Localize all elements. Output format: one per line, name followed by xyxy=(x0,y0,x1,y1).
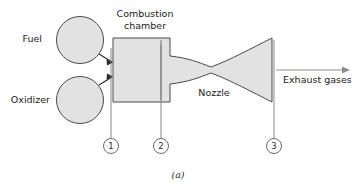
combustion-chamber-label-line2: chamber xyxy=(124,20,166,31)
fuel-feed-line xyxy=(99,54,112,62)
nozzle-label: Nozzle xyxy=(198,87,230,98)
station-2-label: 2 xyxy=(158,141,163,151)
diagram-canvas: 1 2 3 Fuel Oxidizer Combustion chamber N… xyxy=(0,0,357,188)
engine-body xyxy=(113,38,272,102)
figure-caption: (a) xyxy=(171,169,184,180)
combustion-chamber-label-line1: Combustion xyxy=(117,8,174,19)
oxidizer-label: Oxidizer xyxy=(11,94,50,105)
fuel-tank xyxy=(57,17,104,64)
rocket-engine-diagram: 1 2 3 Fuel Oxidizer Combustion chamber N… xyxy=(0,0,357,188)
station-1-label: 1 xyxy=(108,141,113,151)
exhaust-flow-arrowhead xyxy=(342,67,350,74)
oxidizer-tank xyxy=(57,77,104,124)
station-3-label: 3 xyxy=(271,141,276,151)
oxidizer-feed-line xyxy=(99,77,112,85)
exhaust-gases-label: Exhaust gases xyxy=(283,74,352,85)
fuel-label: Fuel xyxy=(23,33,42,44)
